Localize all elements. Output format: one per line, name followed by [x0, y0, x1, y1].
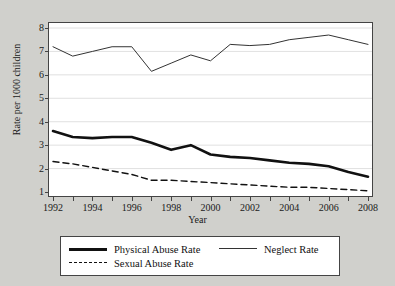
- legend-swatch-thick-solid-icon: [69, 244, 107, 254]
- legend-label-physical: Physical Abuse Rate: [114, 244, 200, 255]
- x-tick-mark-1996: [132, 197, 133, 201]
- y-axis-title: Rate per 1000 children: [11, 30, 22, 150]
- y-tick-label-8: 8: [30, 23, 44, 33]
- series-line-0: [53, 131, 368, 177]
- y-tick-label-7: 7: [30, 46, 44, 56]
- legend-item-neglect-rate: Neglect Rate: [219, 244, 319, 255]
- x-tick-mark-2002: [250, 197, 251, 201]
- legend-item-physical-abuse-rate: Physical Abuse Rate: [69, 244, 219, 255]
- x-tick-label-1994: 1994: [72, 202, 112, 213]
- y-tick-mark-2: [45, 169, 49, 170]
- x-tick-mark-2005: [309, 197, 310, 201]
- x-tick-mark-1999: [191, 197, 192, 201]
- legend-label-sexual: Sexual Abuse Rate: [114, 258, 193, 269]
- y-tick-mark-7: [45, 51, 49, 52]
- x-tick-mark-1994: [92, 197, 93, 201]
- chart-svg: [49, 23, 372, 196]
- y-tick-mark-4: [45, 122, 49, 123]
- x-tick-label-2006: 2006: [309, 202, 349, 213]
- y-axis-ticks: 12345678: [28, 0, 44, 286]
- x-tick-label-2008: 2008: [348, 202, 388, 213]
- x-axis-ticks: 199219941996199820002002200420062008: [0, 201, 395, 215]
- legend-item-sexual-abuse-rate: Sexual Abuse Rate: [69, 258, 219, 269]
- x-tick-mark-1997: [151, 197, 152, 201]
- y-tick-label-2: 2: [30, 164, 44, 174]
- x-tick-label-2000: 2000: [191, 202, 231, 213]
- x-tick-label-2004: 2004: [269, 202, 309, 213]
- x-tick-mark-2001: [230, 197, 231, 201]
- y-tick-mark-8: [45, 28, 49, 29]
- y-tick-mark-1: [45, 192, 49, 193]
- x-tick-mark-1993: [73, 197, 74, 201]
- legend-label-neglect: Neglect Rate: [264, 244, 319, 255]
- y-tick-mark-5: [45, 98, 49, 99]
- x-tick-mark-1992: [53, 197, 54, 201]
- x-tick-mark-2003: [270, 197, 271, 201]
- legend-swatch-dashed-icon: [69, 258, 107, 268]
- x-tick-mark-2004: [289, 197, 290, 201]
- x-tick-label-1996: 1996: [112, 202, 152, 213]
- gridlines: [49, 28, 372, 192]
- y-tick-label-4: 4: [30, 117, 44, 127]
- x-tick-mark-2008: [368, 197, 369, 201]
- x-tick-mark-1998: [171, 197, 172, 201]
- plot-area: [48, 22, 373, 197]
- chart-legend: Physical Abuse Rate Neglect Rate Sexual …: [60, 236, 340, 276]
- x-axis-title: Year: [0, 214, 395, 225]
- x-tick-label-1992: 1992: [33, 202, 73, 213]
- legend-swatch-thin-solid-icon: [219, 244, 257, 254]
- y-tick-label-1: 1: [30, 187, 44, 197]
- y-tick-label-5: 5: [30, 93, 44, 103]
- x-tick-mark-2006: [329, 197, 330, 201]
- legend-row-2: Sexual Abuse Rate: [69, 256, 331, 270]
- legend-row-1: Physical Abuse Rate Neglect Rate: [69, 242, 331, 256]
- x-tick-mark-2000: [211, 197, 212, 201]
- x-tick-mark-2007: [348, 197, 349, 201]
- y-tick-label-6: 6: [30, 70, 44, 80]
- y-tick-mark-3: [45, 145, 49, 146]
- series-line-1: [53, 35, 368, 71]
- y-tick-label-3: 3: [30, 140, 44, 150]
- x-tick-label-1998: 1998: [151, 202, 191, 213]
- chart-figure: 12345678 1992199419961998200020022004200…: [0, 0, 395, 286]
- x-tick-mark-1995: [112, 197, 113, 201]
- x-tick-label-2002: 2002: [230, 202, 270, 213]
- y-tick-mark-6: [45, 75, 49, 76]
- series-lines: [53, 35, 368, 191]
